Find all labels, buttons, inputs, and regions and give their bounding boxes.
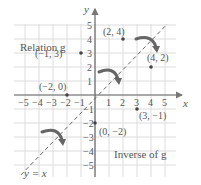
y-tick-label: 3 xyxy=(87,48,92,59)
inverse-title: Inverse of g xyxy=(114,148,167,160)
point-label: (−1, 3) xyxy=(35,48,62,60)
x-tick-label: 2 xyxy=(120,97,125,108)
point-label: (3, −1) xyxy=(139,110,166,122)
data-point xyxy=(149,65,153,69)
coordinate-plane-diagram: x y −5−4−3−2−112345 54321−1−2−3−4−5 y = … xyxy=(0,0,201,185)
identity-line-label: y = x xyxy=(23,167,47,179)
x-axis-label: x xyxy=(182,97,188,109)
y-tick-label: 1 xyxy=(87,76,92,87)
y-tick-label: −3 xyxy=(83,132,94,143)
data-point xyxy=(121,37,125,41)
data-point xyxy=(93,121,97,125)
y-tick-label: 2 xyxy=(87,62,92,73)
data-point xyxy=(65,93,69,97)
x-tick-label: −5 xyxy=(18,97,29,108)
arrowhead-icon xyxy=(58,139,66,146)
data-point xyxy=(79,51,83,55)
y-tick-label: −2 xyxy=(83,118,94,129)
x-tick-label: −2 xyxy=(60,97,71,108)
x-tick-label: 4 xyxy=(148,97,153,108)
point-label: (−2, 0) xyxy=(39,81,66,93)
reflection-arrow-lower xyxy=(42,130,62,140)
y-axis-label: y xyxy=(83,3,89,15)
x-tick-label: −4 xyxy=(32,97,43,108)
x-tick-label: 5 xyxy=(162,97,167,108)
point-label: (0, −2) xyxy=(99,126,126,138)
y-tick-label: −4 xyxy=(83,146,94,157)
x-tick-label: 1 xyxy=(106,97,111,108)
y-tick-label: 5 xyxy=(87,20,92,31)
point-label: (4, 2) xyxy=(147,52,169,64)
y-tick-label: 4 xyxy=(87,34,92,45)
y-tick-label: −5 xyxy=(83,160,94,171)
x-tick-label: 3 xyxy=(134,97,139,108)
x-tick-label: −3 xyxy=(46,97,57,108)
point-label: (2, 4) xyxy=(103,26,125,38)
